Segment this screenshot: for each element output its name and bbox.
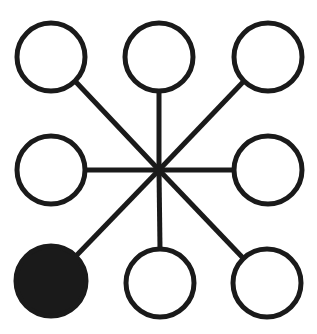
node-top-right[interactable] <box>234 23 302 91</box>
spoke-to-bottom-center <box>159 170 160 249</box>
diagram-canvas <box>0 0 317 334</box>
node-middle-left[interactable] <box>17 136 85 204</box>
spokes-layer <box>75 81 244 258</box>
node-bottom-left[interactable] <box>16 246 86 316</box>
node-middle-right[interactable] <box>234 136 302 204</box>
node-bottom-right[interactable] <box>233 249 301 317</box>
node-bottom-center[interactable] <box>126 249 194 317</box>
radial-node-diagram <box>0 0 317 334</box>
node-top-center[interactable] <box>125 23 193 91</box>
node-top-left[interactable] <box>17 23 85 91</box>
